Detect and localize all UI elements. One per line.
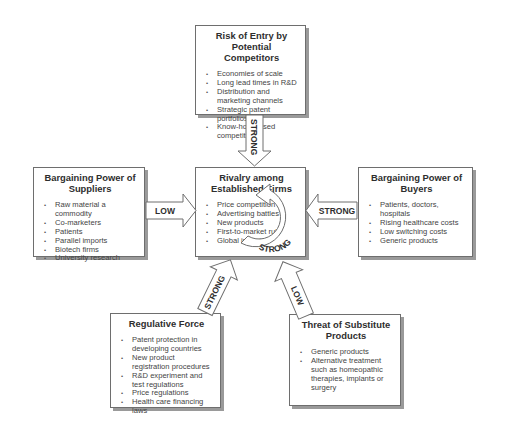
list-item: New product registration procedures <box>132 354 214 372</box>
bullet-list: Generic products Alternative treatment s… <box>298 348 394 393</box>
list-item: Know-how based competition <box>217 123 299 141</box>
box-rivalry: Rivalry among Established Firms Price co… <box>195 167 306 257</box>
box-title: Bargaining Power of Suppliers <box>42 172 138 194</box>
list-item: Health care financing laws <box>132 398 214 416</box>
list-item: Patients, doctors, hospitals <box>380 201 466 219</box>
list-item: Global industry <box>217 237 299 246</box>
box-title: Threat of Substitute Products <box>298 319 394 341</box>
list-item: R&D experiment and test regulations <box>132 372 214 390</box>
box-buyers: Bargaining Power of Buyers Patients, doc… <box>358 167 473 257</box>
list-item: Alternative treatment such as homeopathi… <box>311 357 394 393</box>
bullet-list: Patent protection in developing countrie… <box>119 336 214 416</box>
list-item: Raw material a commodity <box>55 201 138 219</box>
box-title: Risk of Entry by Potential Competitors <box>204 30 299 63</box>
box-suppliers: Bargaining Power of Suppliers Raw materi… <box>33 167 145 257</box>
list-item: University research <box>55 254 138 263</box>
bullet-list: Economies of scale Long lead times in R&… <box>204 70 299 141</box>
arrow-suppliers-to-rivalry: LOW <box>146 194 196 227</box>
list-item: Distribution and marketing channels <box>217 88 299 106</box>
arrow-substitutes-to-rivalry: LOW <box>269 256 320 322</box>
arrow-label: STRONG <box>319 206 356 216</box>
arrow-label: LOW <box>289 285 306 308</box>
bullet-list: Raw material a commodity Co-marketers Pa… <box>42 201 138 263</box>
arrow-regulative-to-rivalry: STRONG <box>192 253 244 318</box>
bullet-list: Patients, doctors, hospitals Rising heal… <box>367 201 466 246</box>
box-title: Rivalry among Established Firms <box>204 172 299 194</box>
bullet-list: Price competition Advertising battles Ne… <box>204 201 299 246</box>
box-title: Regulative Force <box>119 318 214 329</box>
list-item: Strategic patent portfolios <box>217 106 299 124</box>
box-risk-of-entry: Risk of Entry by Potential Competitors E… <box>195 25 306 115</box>
arrow-label: LOW <box>155 206 176 216</box>
arrow-label: STRONG <box>202 273 227 310</box>
box-title: Bargaining Power of Buyers <box>367 172 466 194</box>
box-substitutes: Threat of Substitute Products Generic pr… <box>289 314 401 406</box>
arrow-buyers-to-rivalry: STRONG <box>306 194 357 227</box>
list-item: Patent protection in developing countrie… <box>132 336 214 354</box>
list-item: Generic products <box>380 237 466 246</box>
box-regulative-force: Regulative Force Patent protection in de… <box>110 313 221 408</box>
